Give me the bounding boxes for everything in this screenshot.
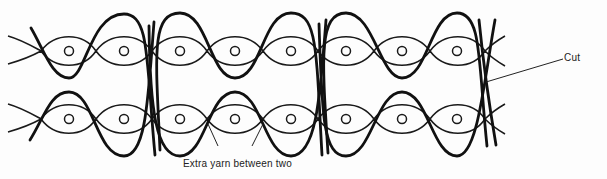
extra-yarn-label: Extra yarn between two — [183, 158, 292, 169]
cut-label: Cut — [564, 52, 580, 63]
yarn-diagram — [0, 0, 607, 179]
bottom-row-thick-yarn — [30, 20, 495, 156]
cut-leader-line — [486, 59, 563, 82]
